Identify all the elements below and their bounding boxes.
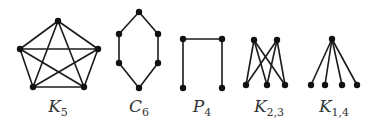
graph-k23 [243, 37, 288, 88]
vertex [219, 36, 225, 42]
label-main: K [319, 96, 332, 116]
edge [20, 49, 84, 87]
vertex [136, 85, 142, 91]
edge [332, 39, 342, 85]
edge [139, 63, 158, 88]
vertex [17, 46, 23, 52]
label-main: C [129, 96, 142, 116]
graph-k14 [308, 36, 360, 88]
label-subscript: 6 [142, 106, 149, 119]
label-main: K [254, 96, 267, 116]
graph-label-c6: C6 [129, 96, 149, 119]
vertex [329, 36, 335, 42]
vertex [322, 82, 328, 88]
vertex [81, 84, 87, 90]
label-main: K [48, 96, 61, 116]
vertex [243, 82, 249, 88]
vertex [282, 82, 288, 88]
vertex [339, 82, 345, 88]
vertex [219, 85, 225, 91]
label-subscript: 4 [204, 106, 211, 119]
vertex [116, 31, 122, 37]
vertex [274, 37, 280, 43]
vertex [180, 36, 186, 42]
vertex [251, 37, 257, 43]
vertex [180, 85, 186, 91]
graph-label-p4: P4 [193, 96, 211, 119]
vertex [95, 46, 101, 52]
vertex [136, 9, 142, 15]
label-subscript: 5 [61, 106, 68, 119]
label-main: P [193, 96, 204, 116]
vertex [264, 82, 270, 88]
vertex [55, 18, 61, 24]
graph-label-k5: K5 [48, 96, 68, 119]
label-subscript: 1,4 [332, 106, 350, 119]
vertex [308, 82, 314, 88]
edge [332, 39, 357, 85]
graph-c6 [116, 9, 161, 91]
vertex [30, 84, 36, 90]
label-subscript: 2,3 [267, 106, 285, 119]
edge [139, 12, 158, 34]
edge [119, 12, 139, 34]
vertex [155, 60, 161, 66]
edge [254, 40, 267, 85]
edge [33, 49, 98, 87]
graph-k5 [17, 18, 101, 90]
graph-label-k14: K1,4 [319, 96, 349, 119]
graph-p4 [180, 36, 225, 91]
graph-label-k23: K2,3 [254, 96, 284, 119]
vertex [354, 82, 360, 88]
edge [119, 63, 139, 88]
edge [84, 49, 98, 87]
vertex [116, 60, 122, 66]
vertex [155, 31, 161, 37]
